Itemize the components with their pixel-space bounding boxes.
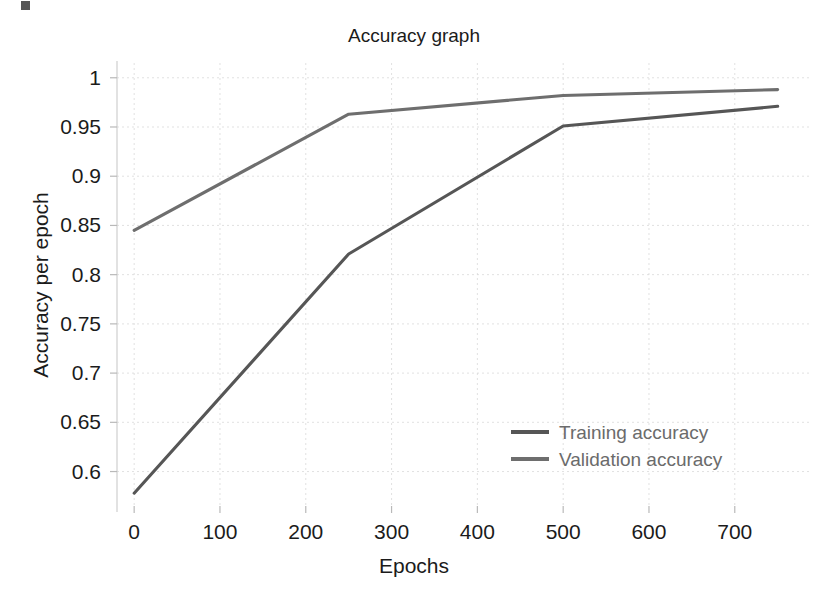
x-tick-label: 0	[128, 520, 140, 543]
chart-legend: Training accuracyValidation accuracy	[511, 422, 723, 470]
series-line-validation-accuracy	[134, 90, 778, 231]
x-axis-tick-labels: 0100200300400500600700	[128, 520, 752, 543]
y-tick-label: 1	[89, 66, 101, 89]
y-tick-label: 0.85	[60, 213, 101, 236]
x-tick-label: 400	[460, 520, 495, 543]
accuracy-line-chart: 0.60.650.70.750.80.850.90.951 0100200300…	[0, 0, 829, 609]
y-tick-label: 0.65	[60, 410, 101, 433]
x-tick-label: 100	[202, 520, 237, 543]
x-tick-label: 200	[288, 520, 323, 543]
y-axis-title: Accuracy per epoch	[29, 192, 52, 378]
x-axis-title: Epochs	[379, 554, 449, 577]
y-tick-label: 0.8	[72, 263, 101, 286]
x-tick-label: 700	[717, 520, 752, 543]
x-tick-label: 600	[631, 520, 666, 543]
chart-page: 0.60.650.70.750.80.850.90.951 0100200300…	[0, 0, 829, 609]
y-tick-label: 0.75	[60, 312, 101, 335]
y-axis-tick-labels: 0.60.650.70.750.80.850.90.951	[60, 66, 101, 483]
x-tick-label: 500	[546, 520, 581, 543]
y-tick-label: 0.95	[60, 115, 101, 138]
chart-title: Accuracy graph	[348, 25, 480, 46]
legend-label: Training accuracy	[559, 422, 709, 443]
x-tick-label: 300	[374, 520, 409, 543]
y-tick-label: 0.9	[72, 164, 101, 187]
axis-tick-marks	[110, 78, 735, 513]
legend-label: Validation accuracy	[559, 449, 723, 470]
y-tick-label: 0.6	[72, 460, 101, 483]
y-tick-label: 0.7	[72, 361, 101, 384]
